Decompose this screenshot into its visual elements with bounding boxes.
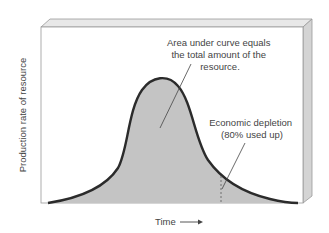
depletion-note-line-1: Economic depletion [209,117,292,128]
arrow-right-icon [180,220,203,225]
depletion-note: Economic depletion (80% used up) [209,117,295,140]
y-axis-label: Production rate of resource [17,58,28,173]
depletion-diagram: Area under curve equals the total amount… [0,0,329,233]
area-note-line-1: Area under curve equals [167,37,271,48]
area-note-line-2: the total amount of the [171,49,266,60]
area-note-line-3: resource. [200,61,240,72]
x-axis-label: Time [155,216,176,227]
depletion-note-line-2: (80% used up) [221,129,283,140]
box-side [303,19,312,203]
box-top [41,19,312,27]
